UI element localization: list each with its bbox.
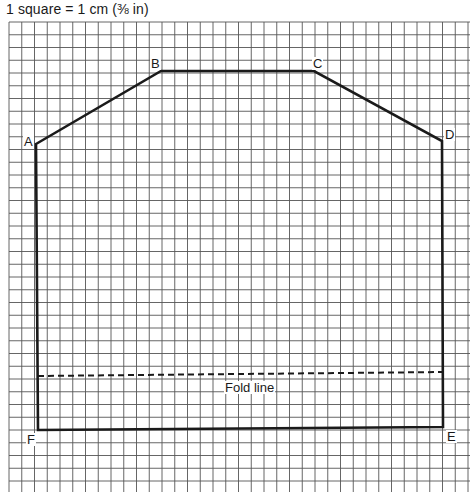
point-label-d: D bbox=[444, 128, 455, 141]
point-label-e: E bbox=[446, 430, 457, 443]
point-label-b: B bbox=[150, 57, 161, 70]
graph-paper-grid bbox=[9, 22, 470, 492]
fold-line bbox=[38, 372, 443, 376]
point-label-c: C bbox=[312, 57, 323, 70]
point-label-a: A bbox=[23, 135, 34, 148]
fold-line-label: Fold line bbox=[224, 381, 275, 394]
point-label-f: F bbox=[26, 433, 36, 446]
pattern-diagram bbox=[0, 0, 472, 495]
pattern-outline bbox=[36, 71, 443, 430]
